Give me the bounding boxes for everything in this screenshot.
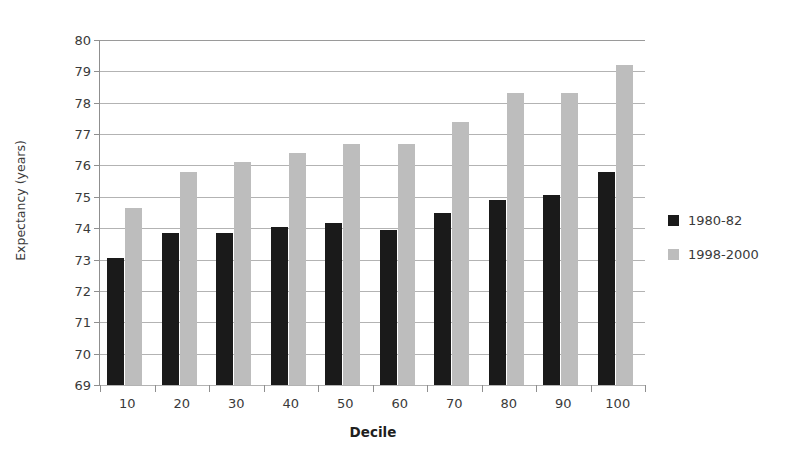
x-tick-mark [100, 385, 101, 392]
x-tick-mark [264, 385, 265, 392]
y-tick-label: 74 [74, 221, 91, 236]
x-tick-label: 30 [228, 396, 245, 411]
bar-chart: Expectancy (years) 697071727374757677787… [0, 0, 809, 472]
bar [107, 258, 124, 385]
x-tick-mark [318, 385, 319, 392]
bar [507, 93, 524, 385]
y-tick-label: 78 [74, 95, 91, 110]
bar [271, 227, 288, 385]
x-tick-mark [373, 385, 374, 392]
bar-group [482, 40, 537, 385]
y-tick-label: 71 [74, 315, 91, 330]
bar [162, 233, 179, 385]
legend-label: 1980-82 [688, 213, 742, 228]
bar [598, 172, 615, 385]
legend-swatch-icon [668, 249, 679, 260]
y-tick-label: 76 [74, 158, 91, 173]
y-tick-label: 69 [74, 378, 91, 393]
bar [234, 162, 251, 385]
y-tick-label: 73 [74, 252, 91, 267]
bar [561, 93, 578, 385]
bar-group [427, 40, 482, 385]
x-tick-label: 20 [173, 396, 190, 411]
bar [289, 153, 306, 385]
x-axis-title: Decile [100, 424, 646, 440]
bar [325, 223, 342, 385]
bar-group [264, 40, 319, 385]
x-tick-mark [645, 385, 646, 392]
x-tick-label: 70 [446, 396, 463, 411]
x-tick-label: 10 [119, 396, 136, 411]
bar [434, 213, 451, 386]
y-tick-label: 77 [74, 127, 91, 142]
y-axis-title: Expectancy (years) [0, 0, 40, 400]
bar [616, 65, 633, 385]
y-tick-label: 80 [74, 33, 91, 48]
bar [452, 122, 469, 385]
bar [543, 195, 560, 385]
x-tick-label: 100 [605, 396, 630, 411]
bar-group [209, 40, 264, 385]
y-axis-title-label: Expectancy (years) [13, 140, 28, 261]
y-tick-label: 79 [74, 64, 91, 79]
x-tick-mark [482, 385, 483, 392]
chart-legend: 1980-821998-2000 [668, 213, 759, 281]
bar [489, 200, 506, 385]
x-tick-mark [536, 385, 537, 392]
y-tick-label: 72 [74, 283, 91, 298]
bar [343, 144, 360, 386]
bar [398, 144, 415, 386]
bar-group [100, 40, 155, 385]
legend-swatch-icon [668, 215, 679, 226]
bar-group [318, 40, 373, 385]
plot-area: 697071727374757677787980 [100, 40, 645, 385]
x-tick-mark [427, 385, 428, 392]
y-tick-label: 75 [74, 189, 91, 204]
x-tick-label: 90 [555, 396, 572, 411]
x-tick-mark [209, 385, 210, 392]
legend-item: 1998-2000 [668, 247, 759, 262]
bar-group [591, 40, 646, 385]
bar [125, 208, 142, 385]
x-tick-label: 60 [391, 396, 408, 411]
bar [216, 233, 233, 385]
x-tick-label: 40 [282, 396, 299, 411]
y-tick-label: 70 [74, 346, 91, 361]
legend-label: 1998-2000 [688, 247, 759, 262]
bar [180, 172, 197, 385]
x-tick-label: 50 [337, 396, 354, 411]
bar-group [536, 40, 591, 385]
x-tick-mark [155, 385, 156, 392]
bar-group [373, 40, 428, 385]
bar [380, 230, 397, 385]
bar-group [155, 40, 210, 385]
x-tick-mark [591, 385, 592, 392]
legend-item: 1980-82 [668, 213, 759, 228]
x-tick-label: 80 [500, 396, 517, 411]
